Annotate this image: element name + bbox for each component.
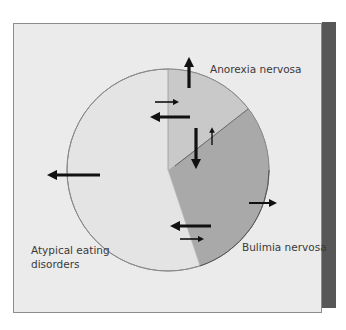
label-atypical-line2: disorders [31, 257, 110, 271]
pie-diagram [0, 0, 346, 330]
label-atypical-line1: Atypical eating [31, 243, 110, 257]
label-atypical-eating-disorders: Atypical eating disorders [31, 243, 110, 271]
label-anorexia-nervosa: Anorexia nervosa [210, 62, 302, 76]
label-bulimia-nervosa: Bulimia nervosa [242, 240, 327, 254]
